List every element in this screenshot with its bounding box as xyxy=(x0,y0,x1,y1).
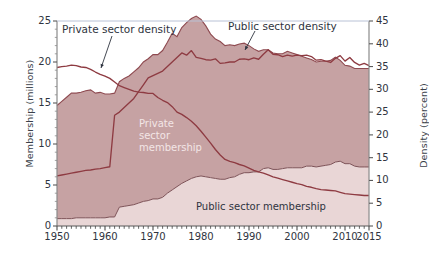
area-label-private-membership-line3: membership xyxy=(139,142,202,154)
area-label-public-membership: Public sector membership xyxy=(196,201,326,212)
yticks-left-label: 0 xyxy=(25,220,51,231)
xticks-label: 1960 xyxy=(85,231,125,242)
yticks-right-label: 0 xyxy=(376,220,402,231)
yticks-right-label: 15 xyxy=(376,152,402,163)
y-axis-right-title: Density (percent) xyxy=(418,71,429,181)
yticks-right-label: 25 xyxy=(376,106,402,117)
area-label-private-membership-line2: sector xyxy=(139,130,170,142)
yticks-right-label: 35 xyxy=(376,61,402,72)
xticks-label: 1970 xyxy=(133,231,173,242)
yticks-left-label: 25 xyxy=(25,15,51,26)
xticks-label: 2015 xyxy=(349,231,389,242)
area-label-private-membership-line1: Private xyxy=(139,118,174,130)
xticks-label: 1950 xyxy=(37,231,77,242)
yticks-right-label: 5 xyxy=(376,197,402,208)
yticks-right-label: 40 xyxy=(376,38,402,49)
yticks-right-label: 10 xyxy=(376,174,402,185)
yticks-left-label: 20 xyxy=(25,56,51,67)
yticks-left-label: 5 xyxy=(25,179,51,190)
xticks-label: 2000 xyxy=(277,231,317,242)
y-axis-left-title: Membership (millions) xyxy=(24,49,35,179)
annotation-private-density: Private sector density xyxy=(62,23,176,35)
stacked-areas xyxy=(57,16,369,226)
xticks-label: 1990 xyxy=(229,231,269,242)
yticks-left-label: 15 xyxy=(25,97,51,108)
yticks-left-label: 10 xyxy=(25,138,51,149)
annotation-public-density: Public sector density xyxy=(228,20,337,32)
yticks-right-label: 20 xyxy=(376,129,402,140)
yticks-right-label: 45 xyxy=(376,15,402,26)
yticks-right-label: 30 xyxy=(376,83,402,94)
xticks-label: 1980 xyxy=(181,231,221,242)
